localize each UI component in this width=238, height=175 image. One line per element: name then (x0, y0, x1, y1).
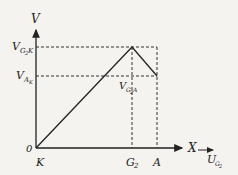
ug2-label: U G 2 (207, 153, 222, 169)
svg-text:A: A (132, 86, 138, 93)
origin-label: 0 (26, 143, 33, 154)
vak-label: V A K (16, 69, 33, 85)
potential-curve (36, 47, 157, 148)
svg-text:K: K (28, 79, 33, 85)
potential-diagram: V X 0 V G 2 K V A K K G 2 A V G 2 A U G … (0, 0, 238, 175)
vg2a-label: V G 2 A (119, 80, 138, 95)
vg2k-label: V G 2 K (12, 40, 34, 56)
y-axis-label: V (31, 12, 41, 26)
g2-label: G 2 (126, 156, 139, 170)
svg-text:2: 2 (218, 163, 222, 169)
svg-text:K: K (27, 47, 34, 55)
k-label: K (35, 156, 45, 169)
a-label: A (152, 156, 161, 169)
svg-text:2: 2 (133, 162, 139, 170)
x-axis-label: X (187, 141, 197, 155)
